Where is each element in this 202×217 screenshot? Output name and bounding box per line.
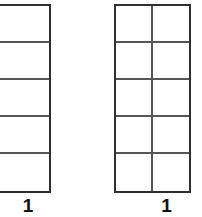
grid-body-left	[0, 4, 51, 193]
grid-cell	[116, 6, 153, 43]
grid-cell	[153, 80, 190, 117]
grid-cell	[116, 117, 153, 154]
grid-figure-left	[0, 4, 51, 193]
figure-label-left: 1	[0, 195, 56, 216]
grid-cell	[116, 80, 153, 117]
grid-cell	[0, 6, 49, 43]
grid-cell	[153, 6, 190, 43]
grid-cell	[0, 43, 49, 80]
figure-label-right: 1	[128, 195, 202, 216]
grid-cell	[153, 154, 190, 191]
grid-figure-right	[114, 4, 191, 193]
grid-cell	[116, 43, 153, 80]
grid-body-right	[114, 4, 191, 193]
grid-cell	[0, 117, 49, 154]
grid-cell	[0, 80, 49, 117]
grid-cell	[153, 117, 190, 154]
grid-cell	[0, 154, 49, 191]
diagram-canvas: 1 1	[0, 0, 202, 217]
grid-cell	[153, 43, 190, 80]
grid-cell	[116, 154, 153, 191]
